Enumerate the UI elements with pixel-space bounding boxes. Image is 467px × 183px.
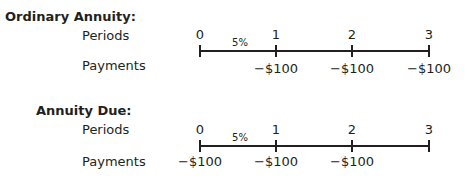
ordinary-tick-0 [199, 45, 201, 57]
ordinary-period-3: 3 [425, 27, 433, 42]
due-period-3: 3 [425, 122, 433, 137]
ordinary-period-1: 1 [272, 27, 280, 42]
ordinary-annuity-title: Ordinary Annuity: [5, 9, 136, 24]
ordinary-payment-3: −$100 [407, 61, 451, 76]
ordinary-period-2: 2 [348, 27, 356, 42]
annuity-due-title: Annuity Due: [36, 103, 132, 118]
due-timeline-line [200, 145, 430, 147]
ordinary-tick-2 [351, 45, 353, 57]
ordinary-payment-1: −$100 [254, 61, 298, 76]
due-payment-1: −$100 [254, 154, 298, 169]
due-tick-0 [199, 140, 201, 152]
due-rate-label: 5% [232, 132, 248, 143]
ordinary-rate-label: 5% [232, 37, 248, 48]
due-payment-0: −$100 [178, 154, 222, 169]
ordinary-periods-label: Periods [82, 28, 129, 43]
ordinary-payments-label: Payments [82, 58, 146, 73]
due-tick-2 [351, 140, 353, 152]
ordinary-tick-1 [275, 45, 277, 57]
ordinary-tick-3 [428, 45, 430, 57]
ordinary-timeline-line [200, 50, 430, 52]
due-period-0: 0 [196, 122, 204, 137]
ordinary-payment-2: −$100 [330, 61, 374, 76]
due-payments-label: Payments [82, 154, 146, 169]
due-tick-1 [275, 140, 277, 152]
due-tick-3 [428, 140, 430, 152]
due-period-2: 2 [348, 122, 356, 137]
ordinary-period-0: 0 [196, 27, 204, 42]
due-periods-label: Periods [82, 122, 129, 137]
due-payment-2: −$100 [330, 154, 374, 169]
due-period-1: 1 [272, 122, 280, 137]
